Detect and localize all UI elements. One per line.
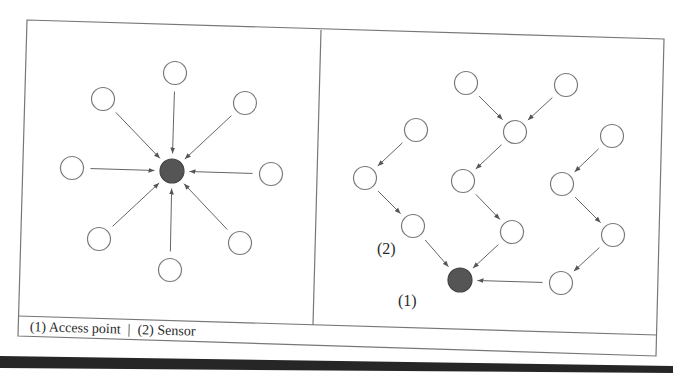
link-arrow — [189, 172, 252, 174]
sensor-node — [455, 72, 478, 95]
link-arrow — [479, 96, 503, 120]
link-arrow — [184, 184, 227, 230]
link-arrow — [575, 149, 599, 172]
sensor-node — [354, 167, 377, 190]
link-arrow — [477, 281, 542, 283]
link-arrow — [473, 245, 499, 269]
page-edge-band — [0, 356, 673, 373]
link-arrow — [528, 98, 553, 121]
sensor-node — [555, 74, 578, 97]
caption-access-point: (1) Access point — [30, 319, 121, 337]
access-point-label: (1) — [398, 292, 417, 310]
access-point-node — [160, 159, 184, 183]
sensor-node — [234, 92, 257, 115]
panel-divider — [313, 30, 321, 325]
sensor-node — [402, 215, 425, 238]
link-arrow — [170, 188, 171, 251]
link-arrow — [425, 240, 448, 267]
sensor-node — [260, 163, 283, 186]
sensor-node — [405, 119, 428, 142]
link-arrow — [113, 183, 160, 226]
sensor-node — [229, 232, 252, 255]
sensor-node — [452, 170, 475, 193]
multihop-nodes — [354, 72, 625, 295]
link-arrow — [173, 91, 175, 153]
link-arrow — [476, 194, 500, 219]
sensor-label: (2) — [377, 240, 396, 258]
caption-sensor: (2) Sensor — [137, 322, 195, 339]
sensor-node — [61, 157, 84, 180]
link-arrow — [575, 197, 601, 223]
link-arrow — [185, 116, 232, 159]
access-point-node — [448, 268, 472, 292]
sensor-node — [504, 121, 527, 144]
link-arrow — [574, 248, 600, 272]
star-nodes — [61, 62, 283, 282]
sensor-node — [501, 221, 524, 244]
link-arrow — [378, 143, 403, 166]
sensor-node — [159, 259, 182, 282]
sensor-node — [88, 228, 111, 251]
sensor-node — [550, 272, 573, 295]
link-arrow — [378, 191, 401, 214]
sensor-node — [164, 62, 187, 85]
sensor-node — [92, 88, 115, 111]
sensor-node — [551, 173, 574, 196]
sensor-node — [601, 125, 624, 148]
link-arrow — [476, 145, 502, 169]
link-arrow — [116, 112, 160, 158]
sensor-node — [602, 224, 625, 247]
link-arrow — [90, 169, 154, 171]
caption-separator: | — [128, 322, 131, 337]
network-topology-figure — [0, 0, 673, 373]
